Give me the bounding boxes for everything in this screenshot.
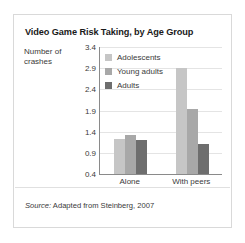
- bar[interactable]: [114, 139, 125, 174]
- legend-swatch-icon: [105, 82, 112, 89]
- legend-label: Adolescents: [117, 53, 161, 62]
- bar[interactable]: [125, 135, 136, 174]
- bar[interactable]: [187, 109, 198, 174]
- source-note: Source: Adapted from Steinberg, 2007: [25, 201, 154, 210]
- y-axis-label: Number of crashes: [24, 47, 82, 67]
- source-separator: [15, 187, 230, 188]
- y-axis-label-line-2: crashes: [24, 57, 82, 67]
- y-tick-label: 2.9: [85, 64, 96, 73]
- x-axis-category-label: Alone: [120, 177, 140, 186]
- chart-legend: AdolescentsYoung adultsAdults: [105, 50, 163, 92]
- y-tick-label: 1.4: [85, 127, 96, 136]
- legend-item-adults[interactable]: Adults: [105, 78, 163, 92]
- legend-label: Young adults: [117, 67, 163, 76]
- y-tick-label: 2.4: [85, 85, 96, 94]
- y-axis-label-line-1: Number of: [24, 47, 82, 57]
- bar-group: [176, 47, 209, 174]
- bar[interactable]: [198, 144, 209, 174]
- y-tick-label: 0.4: [85, 170, 96, 179]
- y-axis-tick-labels: 3.42.92.41.91.40.90.4: [76, 47, 96, 174]
- chart-title: Video Game Risk Taking, by Age Group: [25, 27, 193, 37]
- plot-wrapper: 3.42.92.41.91.40.90.4 AdolescentsYoung a…: [76, 47, 222, 190]
- y-tick-label: 3.4: [85, 43, 96, 52]
- bar[interactable]: [136, 140, 147, 174]
- plot-area: AdolescentsYoung adultsAdults: [99, 47, 222, 175]
- x-axis-category-label: With peers: [172, 177, 210, 186]
- figure-frame: Video Game Risk Taking, by Age Group Num…: [13, 14, 232, 228]
- legend-label: Adults: [117, 81, 139, 90]
- bar[interactable]: [176, 68, 187, 174]
- legend-swatch-icon: [105, 54, 112, 61]
- legend-item-young-adults[interactable]: Young adults: [105, 64, 163, 78]
- legend-swatch-icon: [105, 68, 112, 75]
- source-note-label: Source:: [25, 201, 51, 210]
- source-note-text: Adapted from Steinberg, 2007: [51, 201, 154, 210]
- legend-item-adolescents[interactable]: Adolescents: [105, 50, 163, 64]
- y-tick-label: 1.9: [85, 106, 96, 115]
- y-tick-label: 0.9: [85, 148, 96, 157]
